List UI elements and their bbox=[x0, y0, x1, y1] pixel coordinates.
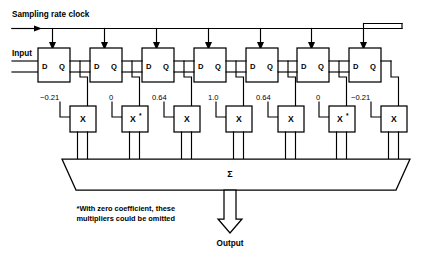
multiplier-symbol-6: X bbox=[337, 114, 343, 124]
multiplier-symbol-5: X bbox=[288, 114, 294, 124]
flipflop-4-port-d: D bbox=[198, 62, 204, 71]
coefficient-label-1: −0.21 bbox=[40, 93, 59, 102]
coefficient-label-5: 0.64 bbox=[256, 93, 271, 102]
flipflop-boxes-group bbox=[38, 48, 381, 82]
flipflop-3-port-d: D bbox=[146, 62, 152, 71]
coefficient-label-4: 1.0 bbox=[208, 93, 219, 102]
flipflop-5-port-d: D bbox=[250, 62, 256, 71]
clock-feed-arrow-icon bbox=[34, 26, 42, 32]
coefficient-label-6: 0 bbox=[316, 93, 320, 102]
summer-block[interactable] bbox=[62, 159, 410, 190]
clock-drop-arrow-6 bbox=[308, 29, 315, 51]
flipflop-6-port-q: Q bbox=[318, 62, 324, 71]
flipflop-4-port-q: Q bbox=[215, 62, 221, 71]
clock-drop-arrow-4 bbox=[205, 29, 212, 51]
coefficient-feed-6 bbox=[319, 102, 329, 117]
multiplier-symbol-4: X bbox=[236, 114, 242, 124]
flipflop-1-port-q: Q bbox=[59, 62, 65, 71]
flipflop-7-port-q: Q bbox=[370, 62, 376, 71]
clock-drop-arrow-5 bbox=[257, 29, 264, 51]
multiplier-output-group bbox=[78, 132, 399, 159]
coefficient-label-2: 0 bbox=[109, 93, 113, 102]
clock-label: Sampling rate clock bbox=[12, 10, 90, 19]
fir-filter-canvas: Sampling rate clock Input D Q D Q D Q D … bbox=[0, 0, 424, 255]
multiplier-symbol-2: X bbox=[130, 114, 136, 124]
flipflop-2-port-q: Q bbox=[111, 62, 117, 71]
flipflop-7-port-d: D bbox=[353, 62, 359, 71]
output-arrow-group bbox=[218, 190, 242, 233]
coefficient-feed-1 bbox=[60, 102, 70, 117]
clock-drop-arrows-group bbox=[49, 24, 367, 51]
multiplier-symbol-3: X bbox=[184, 114, 190, 124]
flipflop-1-port-d: D bbox=[42, 62, 48, 71]
footnote-line-2: multipliers could be omitted bbox=[76, 214, 175, 223]
footnote-line-1: *With zero coefficient, these bbox=[77, 204, 176, 213]
coefficient-label-3: 0.64 bbox=[152, 93, 167, 102]
clock-drop-arrow-2 bbox=[101, 29, 108, 51]
clock-drop-arrow-3 bbox=[153, 29, 160, 51]
coefficient-feed-3 bbox=[164, 102, 174, 117]
fir-filter-diagram: Sampling rate clock Input D Q D Q D Q D … bbox=[0, 0, 424, 255]
clock-drop-arrow-1 bbox=[49, 29, 56, 51]
clock-drop-arrow-7 bbox=[360, 24, 367, 51]
input-lines-group bbox=[12, 61, 38, 72]
input-label: Input bbox=[12, 49, 32, 58]
flipflop-2-port-d: D bbox=[94, 62, 100, 71]
coefficient-feed-4 bbox=[216, 102, 226, 117]
summation-symbol: Σ bbox=[227, 169, 233, 179]
coefficient-feed-5 bbox=[268, 102, 278, 117]
coefficient-feed-7 bbox=[371, 102, 381, 117]
multiplier-symbol-7: X bbox=[391, 114, 397, 124]
flipflop-3-port-q: Q bbox=[163, 62, 169, 71]
clock-bus-group bbox=[12, 24, 402, 32]
flipflop-5-port-q: Q bbox=[267, 62, 273, 71]
coefficient-feed-2 bbox=[112, 102, 122, 117]
coefficient-label-7: −0.21 bbox=[351, 93, 370, 102]
output-arrow-icon bbox=[218, 190, 242, 233]
multiplier-symbol-1: X bbox=[80, 114, 86, 124]
output-label: Output bbox=[217, 239, 244, 248]
flipflop-6-port-d: D bbox=[301, 62, 307, 71]
